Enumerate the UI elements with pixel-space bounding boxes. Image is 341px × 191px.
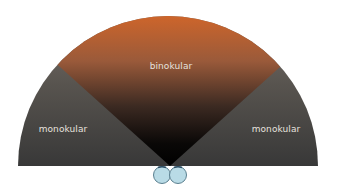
right-eye-icon bbox=[170, 167, 187, 184]
right-monocular-label: monokular bbox=[252, 124, 301, 134]
binocular-label: binokular bbox=[150, 61, 193, 71]
visual-field-diagram: binokular monokular monokular bbox=[0, 0, 341, 191]
eyes bbox=[154, 167, 187, 184]
left-monocular-label: monokular bbox=[39, 124, 88, 134]
left-eye-icon bbox=[154, 167, 171, 184]
visual-field-graphic bbox=[0, 0, 341, 191]
